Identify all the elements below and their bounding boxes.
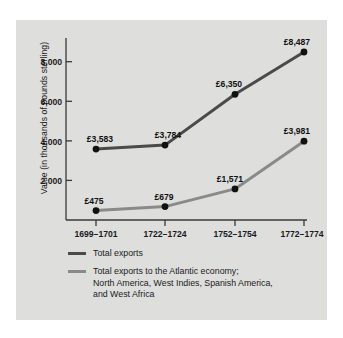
data-label-total-1: £3,784 <box>138 130 198 140</box>
legend-label-total-exports: Total exports <box>93 248 143 259</box>
legend-label-atlantic-economy: Total exports to the Atlantic economy; N… <box>93 266 273 300</box>
legend-label-line: and West Africa <box>93 289 273 300</box>
legend-label-line: North America, West Indies, Spanish Amer… <box>93 278 273 289</box>
legend-label-line: Total exports to the Atlantic economy; <box>93 266 273 277</box>
data-label-atlantic-2: £1,571 <box>200 174 260 184</box>
data-label-atlantic-1: £679 <box>134 192 194 202</box>
data-label-total-2: £6,350 <box>199 79 259 89</box>
chart-legend: Total exports Total exports to the Atlan… <box>68 248 318 308</box>
legend-label-line: Total exports <box>93 248 143 259</box>
chart-figure: Value (in thousands of pounds sterling) … <box>16 20 327 320</box>
data-label-atlantic-3: £3,981 <box>267 126 327 136</box>
legend-item-total-exports: Total exports <box>68 248 318 259</box>
legend-swatch-line-icon <box>68 252 86 255</box>
data-label-atlantic-0: £475 <box>64 196 124 206</box>
legend-item-atlantic-economy: Total exports to the Atlantic economy; N… <box>68 266 318 300</box>
data-label-total-3: £8,487 <box>267 37 327 47</box>
legend-swatch-line-icon <box>68 270 86 273</box>
data-label-total-0: £3,583 <box>70 134 130 144</box>
